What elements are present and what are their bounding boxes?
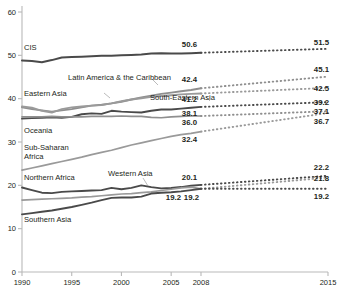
series-label-southern-asia: Southern Asia xyxy=(24,215,72,224)
x-axis-tick-label: 2005 xyxy=(163,278,180,287)
value-label-2015: 36.7 xyxy=(314,117,329,126)
value-label-2008: 36.0 xyxy=(182,118,198,127)
x-axis-tick-label: 2000 xyxy=(113,278,130,287)
x-axis-tick-label: 2015 xyxy=(320,278,337,287)
x-axis: 199019952000200520082015 xyxy=(14,272,337,287)
value-label-2015: 42.5 xyxy=(314,84,330,93)
value-label-2015: 45.1 xyxy=(314,65,330,74)
series-label-sub-saharan-africa-line2: Africa xyxy=(24,152,44,161)
value-label-2008: 42.4 xyxy=(182,75,198,84)
series-label-eastern-asia: Eastern Asia xyxy=(24,89,67,98)
value-label-2008: 20.1 xyxy=(182,173,198,182)
series-label-latin-america: Latin America & the Caribbean xyxy=(68,73,171,82)
y-axis-tick-label: 40 xyxy=(8,94,16,103)
chart-container: 0102030405060 199019952000200520082015 C… xyxy=(0,0,337,295)
series-label-sub-saharan-africa: Sub-Saharan xyxy=(24,143,69,152)
series-label-oceania: Oceania xyxy=(24,126,53,135)
value-label-2015: 21.8 xyxy=(314,174,330,183)
x-axis-tick-label: 2008 xyxy=(193,278,210,287)
value-label-2008: 50.6 xyxy=(182,40,198,49)
series-label-western-asia: Western Asia xyxy=(108,169,153,178)
value-label-2015: 19.2 xyxy=(314,192,330,201)
series-projection-line xyxy=(201,49,328,53)
value-label-2008: 41.2 xyxy=(182,95,198,104)
value-label-2008: 19.2 xyxy=(184,193,200,202)
x-axis-tick-label: 1995 xyxy=(63,278,80,287)
value-label-2008: 19.2 xyxy=(166,193,182,202)
series-label-cis: CIS xyxy=(24,43,37,52)
y-axis-tick-label: 20 xyxy=(8,181,16,190)
y-axis-tick-label: 50 xyxy=(8,51,16,60)
series-line xyxy=(22,53,201,63)
value-label-2015: 22.2 xyxy=(314,163,330,172)
value-label-2008: 32.4 xyxy=(182,135,198,144)
series-projection-line xyxy=(201,113,328,132)
x-axis-tick-label: 1990 xyxy=(14,278,31,287)
series-projection-line xyxy=(201,77,328,89)
value-label-2008: 38.1 xyxy=(182,109,198,118)
y-axis: 0102030405060 xyxy=(8,6,22,277)
line-chart: 0102030405060 199019952000200520082015 C… xyxy=(0,0,337,295)
value-label-2015: 51.5 xyxy=(314,38,330,47)
y-axis-tick-label: 30 xyxy=(8,138,16,147)
label-leader-line xyxy=(104,93,110,98)
value-label-2015: 39.2 xyxy=(314,98,330,107)
y-axis-tick-label: 60 xyxy=(8,8,16,17)
series-projection-line xyxy=(201,102,328,107)
y-axis-tick-label: 10 xyxy=(8,224,16,233)
y-axis-tick-label: 0 xyxy=(12,268,16,277)
series-label-northern-africa: Northern Africa xyxy=(24,173,75,182)
series-projection-line xyxy=(201,88,328,94)
value-label-2015: 37.1 xyxy=(314,107,330,116)
